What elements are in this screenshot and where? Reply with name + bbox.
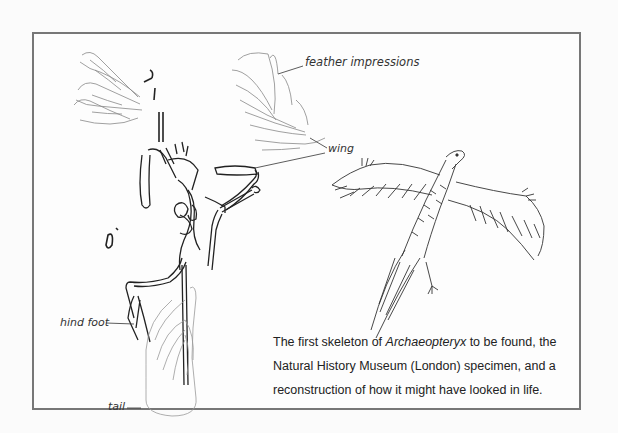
label-tail: tail — [108, 400, 125, 413]
caption-species-name: Archaeopteryx — [386, 335, 467, 349]
label-feather-impressions: feather impressions — [305, 55, 419, 69]
feather-impressions-left — [74, 52, 142, 124]
figure-caption: The first skeleton of Archaeopteryx to b… — [273, 330, 573, 402]
label-hind-foot: hind foot — [60, 316, 109, 329]
reconstructed-archaeopteryx — [332, 151, 544, 338]
label-wing: wing — [328, 142, 354, 155]
caption-text-1: The first skeleton of — [273, 335, 386, 349]
tail-feather-impression — [146, 287, 196, 416]
